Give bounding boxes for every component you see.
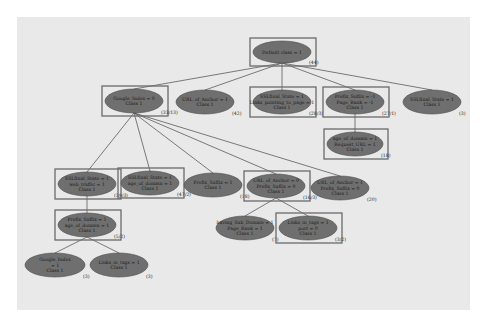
node-count: (3/2) (335, 237, 346, 242)
node-label: port = 0 (298, 226, 318, 231)
node-label: Class 1 (347, 147, 364, 152)
node-label: Class 1 (205, 185, 222, 190)
tree-node-n10: URL_of_Anchor = 0Prefix_Suffix = 0Class … (244, 171, 317, 201)
tree-node-n11: URL_of_Anchor = 1Prefix_Suffix = 0Class … (311, 176, 377, 202)
tree-node-n14: Links_in_tags = 1port = 0Class 1(3/2) (276, 213, 346, 243)
node-count: (20) (367, 197, 377, 202)
tree-edge (205, 63, 282, 90)
node-count: (44) (309, 60, 319, 65)
node-count: (16/3) (303, 195, 317, 200)
node-count: (39/3) (114, 193, 128, 198)
node-label: Class 1 (142, 186, 159, 191)
tree-edge (282, 63, 432, 90)
tree-node-root: Default class = 1(44) (250, 38, 319, 66)
tree-edge (134, 113, 340, 176)
node-label: Class 1 (332, 191, 349, 196)
node-count: (28/3) (309, 111, 323, 116)
node-count: (3) (146, 274, 153, 279)
node-label: Class 1 (79, 228, 96, 233)
node-count: (27/1) (382, 111, 396, 116)
tree-node-n8: SSLfinal_State = 1age_of_domain = 1Class… (118, 168, 191, 198)
tree-edge (134, 113, 150, 171)
decision-tree-diagram: Default class = 1(44)Google_Index = 0Cla… (0, 0, 489, 326)
node-label: Class 1 (268, 189, 285, 194)
node-label: Class 1 (47, 268, 64, 273)
tree-node-n1: Google_Index = 0Class 1(33/13) (102, 86, 178, 116)
tree-node-n3: SSLfinal_State = 1Links_pointing_to_page… (250, 87, 323, 117)
node-label: Class 1 (274, 105, 291, 110)
tree-node-n12: Prefix_Suffix = 1age_of_domain = 1Class … (55, 210, 125, 240)
node-label: Class 1 (111, 265, 128, 270)
tree-node-n7: SSLfinal_State = 1web_traffic = 1Class 1… (55, 169, 128, 199)
tree-edge (134, 63, 282, 89)
tree-edge (134, 113, 276, 174)
node-count: (18) (240, 194, 250, 199)
tree-node-n15: Google_Index= 1Class 1(3) (25, 253, 90, 279)
tree-node-n13: having_Sub_Domain = 1Page_Rank = 1Class … (216, 216, 279, 242)
tree-edge (87, 113, 134, 172)
node-count: (42) (232, 111, 242, 116)
tree-nodes: Default class = 1(44)Google_Index = 0Cla… (25, 38, 466, 279)
tree-node-n16: Links_in_tags = 1Class 1(3) (90, 253, 153, 279)
tree-node-n6: age_of_domain = 1Request_URL = 1Class 1(… (324, 129, 391, 159)
node-label: Class 1 (126, 101, 143, 106)
node-count: (5/2) (114, 234, 125, 239)
node-count: (47/2) (177, 192, 191, 197)
node-label: Class 1 (197, 102, 214, 107)
node-label: Class 1 (347, 105, 364, 110)
tree-node-n2: URL_of_Anchor = 1Class 1(42) (176, 90, 242, 116)
node-count: (3) (83, 274, 90, 279)
tree-node-n9: Prefix_Suffix = 1Class 1(18) (184, 173, 250, 199)
node-label: = 1 (51, 263, 59, 268)
tree-edge (134, 113, 213, 173)
node-label: Class 1 (79, 187, 96, 192)
tree-node-n4: Prefix_Suffix = -1Page_Rank = -1Class 1(… (323, 87, 396, 117)
node-count: (18) (381, 153, 391, 158)
node-label: Class 1 (300, 231, 317, 236)
node-count: (33/13) (161, 110, 178, 115)
node-count: (3) (459, 111, 466, 116)
tree-edge (282, 63, 355, 90)
node-label: Default class = 1 (262, 50, 302, 55)
node-label: Class 1 (237, 231, 254, 236)
tree-node-n5: SSLfinal_State = 1Class 1(3) (403, 90, 466, 116)
node-label: Class 1 (424, 102, 441, 107)
